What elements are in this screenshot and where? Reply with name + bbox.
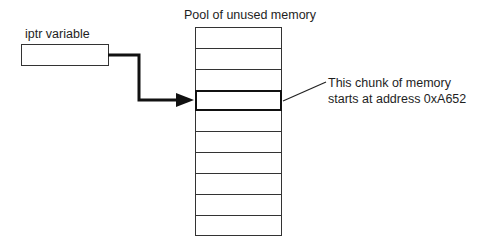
memory-chunk (195, 69, 282, 90)
callout-text: This chunk of memory starts at address 0… (328, 75, 466, 107)
memory-chunk (195, 48, 282, 69)
callout-leader-line (283, 82, 326, 101)
iptr-variable-box (21, 44, 109, 66)
memory-pool-column (195, 27, 282, 236)
memory-chunk (195, 194, 282, 215)
memory-chunk (195, 27, 282, 48)
memory-chunk (195, 131, 282, 152)
memory-chunk (195, 110, 282, 131)
memory-chunk (195, 152, 282, 173)
memory-chunk (195, 173, 282, 194)
memory-chunk (195, 215, 282, 236)
callout-line-1: This chunk of memory (328, 75, 466, 91)
iptr-variable-label: iptr variable (25, 27, 90, 42)
memory-chunk-pointed (195, 90, 282, 111)
pointer-arrow-icon (108, 55, 194, 107)
pool-title: Pool of unused memory (184, 8, 316, 23)
callout-line-2: starts at address 0xA652 (328, 91, 466, 107)
memory-pointer-diagram: Pool of unused memory iptr variable This… (0, 0, 478, 248)
